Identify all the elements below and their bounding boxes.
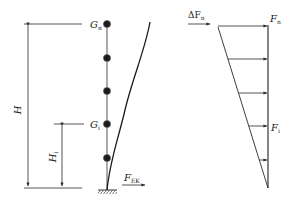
- extra-top-force-label: ΔFn: [188, 10, 205, 21]
- mass-point: [103, 120, 110, 127]
- level-force-label: Fi: [270, 122, 280, 134]
- top-force-label: Fn: [269, 13, 281, 25]
- mid-mass-label: Gi: [90, 119, 100, 131]
- top-mass-label: Gn: [90, 19, 102, 31]
- distribution-envelope: [218, 27, 268, 188]
- mass-point: [103, 20, 110, 27]
- total-height-label: H: [12, 105, 23, 115]
- force-distribution: ΔFn Fn Fi: [188, 10, 281, 188]
- fixed-support-hatch: [98, 190, 117, 194]
- base-shear-label: FEK: [123, 172, 140, 184]
- structure-model: H Hi Gn Gi FEK: [12, 19, 150, 194]
- mass-point: [103, 54, 110, 61]
- base-shear-diagram: H Hi Gn Gi FEK ΔFn Fn: [0, 0, 292, 210]
- deflection-curve: [107, 22, 150, 190]
- mass-point: [103, 87, 110, 94]
- force-arrows: [218, 26, 267, 160]
- level-height-label: Hi: [47, 152, 59, 164]
- mass-point: [103, 154, 110, 161]
